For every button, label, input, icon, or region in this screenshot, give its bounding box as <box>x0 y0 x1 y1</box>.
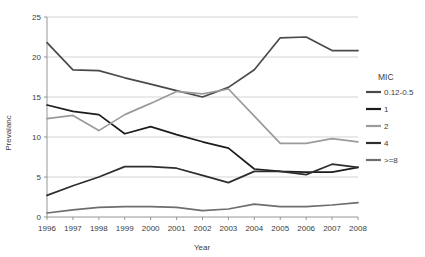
x-tick-label: 1996 <box>38 224 56 233</box>
x-axis-title: Year <box>194 243 211 252</box>
line-chart: 0510152025 19961997199819992000200120022… <box>0 0 425 257</box>
legend-label-0-12-0-5: 0.12-0.5 <box>384 88 414 97</box>
x-tick-label: 2006 <box>297 224 315 233</box>
legend-title: MIC <box>378 72 394 82</box>
y-tick-label: 20 <box>32 53 41 62</box>
x-tick-label: 2008 <box>349 224 367 233</box>
chart-canvas: 0510152025 19961997199819992000200120022… <box>0 0 425 257</box>
y-tick-label: 10 <box>32 133 41 142</box>
y-tick-label: 25 <box>32 13 41 22</box>
legend-label-2: 2 <box>384 122 389 131</box>
legend-label-1: 1 <box>384 105 389 114</box>
x-tick-label: 1999 <box>116 224 134 233</box>
x-tick-label: 2005 <box>271 224 289 233</box>
y-tick-label: 15 <box>32 93 41 102</box>
x-tick-label: 1997 <box>64 224 82 233</box>
x-tick-label: 2000 <box>142 224 160 233</box>
x-tick-label: 2002 <box>194 224 212 233</box>
legend-label-4: 4 <box>384 139 389 148</box>
x-tick-label: 2001 <box>168 224 186 233</box>
x-tick-label: 2004 <box>245 224 263 233</box>
x-tick-label: 2007 <box>323 224 341 233</box>
x-tick-label: 1998 <box>90 224 108 233</box>
chart-background <box>0 0 425 257</box>
y-tick-label: 5 <box>37 173 42 182</box>
y-tick-label: 0 <box>37 213 42 222</box>
x-tick-label: 2003 <box>220 224 238 233</box>
legend-label--8: >=8 <box>384 156 398 165</box>
y-axis-title: Prevalanc <box>4 115 13 151</box>
